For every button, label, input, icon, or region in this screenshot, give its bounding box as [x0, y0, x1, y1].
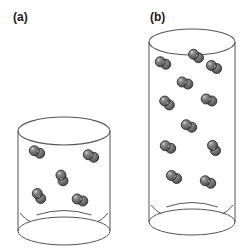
- gas-cylinders-figure: (a) (b): [0, 0, 247, 248]
- atom-highlight: [191, 51, 194, 54]
- atom: [189, 49, 199, 59]
- atom-highlight: [162, 143, 165, 146]
- atom-highlight: [185, 81, 187, 83]
- molecule: [166, 171, 181, 184]
- molecule: [32, 189, 45, 204]
- atom-highlight: [208, 180, 210, 182]
- cylinder-a-top-ellipse: [18, 117, 110, 145]
- atom-highlight: [31, 148, 34, 151]
- molecule: [208, 140, 221, 155]
- molecule: [201, 94, 217, 106]
- atom-highlight: [91, 154, 93, 156]
- atom: [32, 189, 42, 199]
- atom-highlight: [162, 98, 165, 101]
- atom: [206, 61, 216, 71]
- molecule: [189, 49, 204, 62]
- atom-highlight: [166, 102, 168, 104]
- atom-highlight: [74, 196, 77, 199]
- atom-highlight: [80, 198, 82, 200]
- cylinder-b-inner-arc-right-tick: [222, 205, 233, 214]
- atom-highlight: [157, 59, 160, 62]
- atom-highlight: [174, 176, 176, 178]
- atom-highlight: [38, 195, 40, 197]
- molecule: [177, 77, 193, 89]
- atom-highlight: [202, 178, 205, 181]
- atom-highlight: [203, 96, 206, 99]
- panel-label-b: (b): [150, 10, 165, 24]
- atom: [166, 171, 176, 181]
- cylinder-a-inner-arc-left-tick: [20, 213, 31, 222]
- atom: [160, 96, 170, 106]
- cylinder-b-inner-arc: [166, 203, 218, 208]
- cylinder-b: [149, 29, 235, 235]
- cylinder-a-inner-arc-right-tick: [97, 213, 108, 222]
- atom-highlight: [60, 178, 62, 180]
- cylinder-a-inner-arc: [36, 211, 91, 216]
- atom-highlight: [163, 61, 165, 63]
- molecule: [29, 146, 44, 159]
- atom-highlight: [196, 55, 198, 57]
- molecule: [72, 194, 88, 206]
- molecule: [83, 150, 98, 163]
- cylinder-a: [18, 117, 110, 245]
- atom-highlight: [214, 66, 216, 68]
- molecule: [160, 96, 175, 110]
- atom-highlight: [208, 62, 211, 65]
- atom-highlight: [168, 145, 170, 147]
- atom-highlight: [58, 172, 61, 175]
- atom-highlight: [34, 190, 37, 193]
- atom: [208, 140, 218, 150]
- atom-highlight: [213, 148, 215, 150]
- molecule: [181, 120, 196, 133]
- molecule: [155, 57, 170, 70]
- molecule: [206, 61, 221, 74]
- cylinder-b-inner-arc-left-tick: [151, 205, 162, 214]
- molecule: [160, 141, 175, 154]
- atom-highlight: [168, 172, 171, 175]
- cylinder-b-bottom-ellipse: [149, 209, 235, 235]
- atom-highlight: [179, 79, 182, 82]
- atom-highlight: [210, 142, 213, 145]
- atom-highlight: [37, 150, 39, 152]
- atom-highlight: [183, 122, 186, 125]
- cylinders-svg: [0, 0, 247, 248]
- cylinder-a-bottom-ellipse: [18, 217, 110, 245]
- atom-highlight: [209, 98, 211, 100]
- molecule: [56, 170, 68, 186]
- panel-label-a: (a): [13, 10, 28, 24]
- molecule: [200, 176, 215, 189]
- atom-highlight: [85, 152, 88, 155]
- atom-highlight: [189, 124, 191, 126]
